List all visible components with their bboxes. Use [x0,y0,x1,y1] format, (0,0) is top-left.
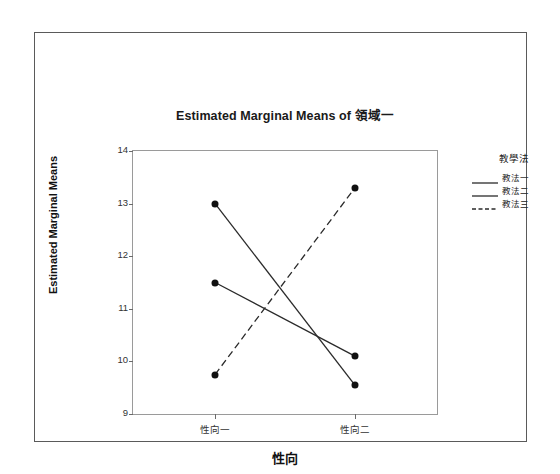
y-tick-label: 11 [118,302,128,313]
y-tick-label: 13 [117,197,128,208]
x-axis-title: 性向 [132,448,438,467]
y-axis-title: Estimated Marginal Means [47,75,59,375]
legend-key-icon [472,173,498,181]
data-point [212,200,219,207]
legend-key-icon [472,199,498,207]
data-point [212,279,219,286]
x-tick-label: 性向一 [200,422,230,436]
legend-key-icon [472,186,498,194]
data-point [212,371,219,378]
data-point [351,184,358,191]
y-tick-label: 10 [117,354,128,365]
plot-area: 91011121314 性向一性向二 [132,150,438,415]
x-tick-mark [355,414,356,419]
legend-entry-3: 教法三 [472,198,556,208]
series-lines [133,151,437,414]
legend-entry-label: 教法三 [502,197,529,209]
legend-entry-label: 教法二 [502,184,529,196]
legend-entry-2: 教法二 [472,185,556,195]
legend-entries: 教法一教法二教法三 [472,172,556,208]
legend-title: 教學法 [472,151,556,165]
legend-entry-1: 教法一 [472,172,556,182]
chart-frame: Estimated Marginal Means of 領域一 Estimate… [34,32,527,442]
chart-title: Estimated Marginal Means of 領域一 [132,105,438,124]
series-line-3 [215,188,355,375]
y-tick-label: 9 [123,407,128,418]
legend: 教學法 教法一教法二教法三 [472,151,556,211]
y-tick-label: 12 [117,249,128,260]
data-point [351,353,358,360]
series-line-1 [215,204,355,385]
y-tick-mark [129,414,133,415]
x-tick-label: 性向二 [340,422,370,436]
data-point [351,382,358,389]
x-tick-mark [215,414,216,419]
legend-entry-label: 教法一 [502,171,529,183]
y-tick-label: 14 [117,144,128,155]
